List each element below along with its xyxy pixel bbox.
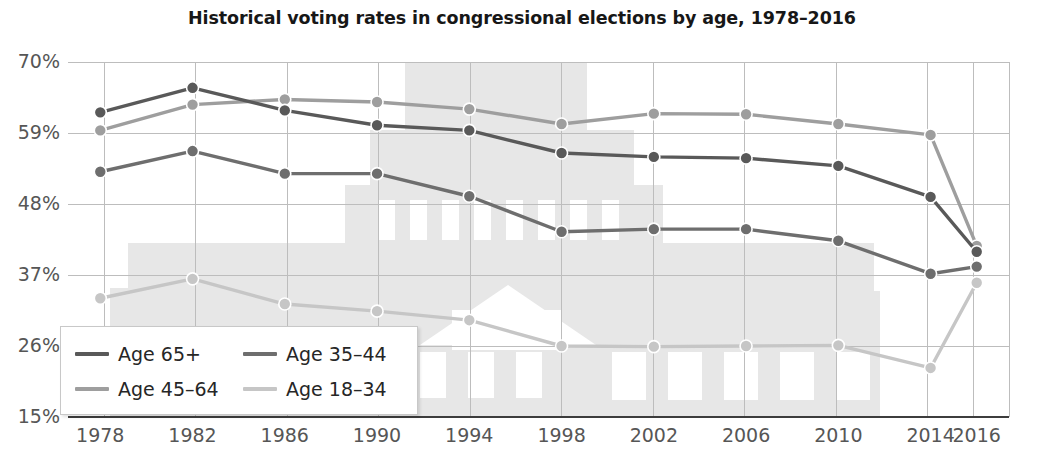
data-point[interactable] <box>971 246 983 258</box>
data-point[interactable] <box>740 152 752 164</box>
data-point[interactable] <box>556 226 568 238</box>
data-point[interactable] <box>648 151 660 163</box>
y-tick-label: 26% <box>0 334 60 356</box>
y-tick-label: 15% <box>0 405 60 427</box>
legend-item[interactable]: Age 35–44 <box>243 336 411 371</box>
data-point[interactable] <box>279 104 291 116</box>
legend-item[interactable]: Age 18–34 <box>243 371 411 406</box>
x-tick-label: 1990 <box>331 424 423 446</box>
data-point[interactable] <box>556 147 568 159</box>
chart-legend: Age 65+Age 35–44Age 45–64Age 18–34 <box>60 326 418 415</box>
legend-item[interactable]: Age 45–64 <box>75 371 243 406</box>
legend-swatch-icon <box>243 387 277 391</box>
data-point[interactable] <box>371 305 383 317</box>
legend-label: Age 65+ <box>118 343 201 365</box>
data-point[interactable] <box>971 261 983 273</box>
data-point[interactable] <box>187 273 199 285</box>
data-point[interactable] <box>556 340 568 352</box>
data-point[interactable] <box>279 168 291 180</box>
data-point[interactable] <box>556 118 568 130</box>
legend-swatch-icon <box>243 352 277 356</box>
data-point[interactable] <box>832 160 844 172</box>
data-point[interactable] <box>463 190 475 202</box>
x-tick-label: 2016 <box>931 424 1023 446</box>
data-point[interactable] <box>94 106 106 118</box>
x-tick-label: 1994 <box>423 424 515 446</box>
legend-swatch-icon <box>75 387 109 391</box>
data-point[interactable] <box>463 314 475 326</box>
data-point[interactable] <box>648 108 660 120</box>
y-tick-label: 37% <box>0 263 60 285</box>
x-tick-label: 2002 <box>608 424 700 446</box>
data-point[interactable] <box>463 124 475 136</box>
legend-swatch-icon <box>75 352 109 356</box>
legend-item[interactable]: Age 65+ <box>75 336 243 371</box>
data-point[interactable] <box>925 129 937 141</box>
data-point[interactable] <box>371 168 383 180</box>
x-tick-label: 1998 <box>516 424 608 446</box>
x-tick-label: 2006 <box>700 424 792 446</box>
data-point[interactable] <box>832 235 844 247</box>
y-tick-label: 59% <box>0 121 60 143</box>
data-point[interactable] <box>371 96 383 108</box>
data-point[interactable] <box>187 82 199 94</box>
data-point[interactable] <box>94 292 106 304</box>
data-point[interactable] <box>187 99 199 111</box>
y-tick-label: 48% <box>0 192 60 214</box>
data-point[interactable] <box>740 340 752 352</box>
y-tick-label: 70% <box>0 50 60 72</box>
legend-label: Age 18–34 <box>286 378 387 400</box>
data-point[interactable] <box>925 191 937 203</box>
legend-label: Age 35–44 <box>286 343 387 365</box>
x-tick-label: 1982 <box>147 424 239 446</box>
data-point[interactable] <box>279 298 291 310</box>
data-point[interactable] <box>832 118 844 130</box>
x-tick-label: 1986 <box>239 424 331 446</box>
chart-root: Historical voting rates in congressional… <box>0 0 1044 470</box>
data-point[interactable] <box>94 124 106 136</box>
legend-label: Age 45–64 <box>118 378 219 400</box>
data-point[interactable] <box>740 223 752 235</box>
data-point[interactable] <box>971 277 983 289</box>
data-point[interactable] <box>94 166 106 178</box>
data-point[interactable] <box>463 103 475 115</box>
x-tick-label: 2010 <box>792 424 884 446</box>
data-point[interactable] <box>832 339 844 351</box>
data-point[interactable] <box>740 108 752 120</box>
data-point[interactable] <box>371 119 383 131</box>
data-point[interactable] <box>925 268 937 280</box>
data-point[interactable] <box>187 145 199 157</box>
data-point[interactable] <box>925 362 937 374</box>
x-tick-label: 1978 <box>54 424 146 446</box>
data-point[interactable] <box>648 341 660 353</box>
data-point[interactable] <box>648 223 660 235</box>
